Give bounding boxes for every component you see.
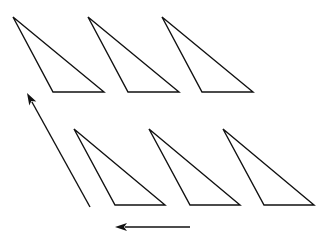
bottom-row — [74, 129, 314, 205]
triangle-bottom-2 — [149, 129, 240, 205]
top-row — [13, 17, 253, 92]
arrow-shaft — [32, 102, 90, 207]
arrowhead-icon — [27, 93, 36, 105]
triangle-bottom-3 — [223, 129, 314, 205]
triangle-top-1 — [13, 17, 104, 92]
left-arrow — [115, 223, 190, 231]
triangle-top-3 — [162, 17, 253, 92]
triangle-top-2 — [88, 17, 179, 92]
triangle-bottom-1 — [74, 129, 165, 205]
triangle-pattern-diagram — [0, 0, 329, 244]
diagonal-up-arrow — [27, 93, 90, 207]
